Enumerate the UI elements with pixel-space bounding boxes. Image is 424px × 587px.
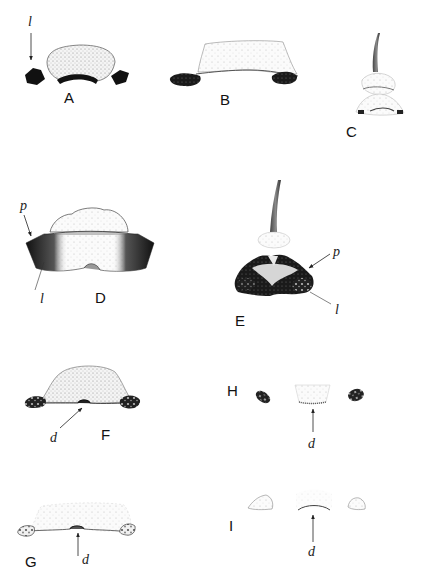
annotation-e-p: p	[333, 245, 340, 259]
annotation-a-l: l	[28, 15, 32, 29]
panel-d-drawing	[26, 208, 154, 271]
panel-label-i: I	[229, 518, 233, 533]
panel-a-drawing	[25, 45, 129, 85]
panel-c-drawing	[356, 33, 404, 115]
annotation-e-l: l	[335, 303, 339, 317]
panel-h-drawing	[254, 385, 366, 406]
panel-label-h: H	[227, 383, 238, 398]
panel-label-f: F	[101, 427, 110, 442]
panel-i-drawing	[248, 490, 365, 511]
arrow-d-p	[24, 215, 31, 236]
panel-label-c: C	[346, 124, 357, 139]
panel-label-d: D	[95, 290, 106, 305]
annotation-g-d: d	[82, 553, 89, 567]
leader-e-l	[310, 292, 331, 304]
panel-f-drawing	[25, 366, 140, 409]
panel-g-drawing	[18, 503, 135, 536]
annotation-i-d: d	[308, 545, 315, 559]
panel-label-a: A	[64, 90, 74, 105]
panel-label-e: E	[235, 313, 245, 328]
annotation-d-p: p	[20, 199, 27, 213]
panel-label-b: B	[220, 92, 230, 107]
annotation-f-d: d	[50, 431, 57, 445]
panel-b-drawing	[170, 41, 298, 86]
annotation-d-l: l	[40, 292, 44, 306]
arrow-e-p	[309, 254, 330, 268]
figure-caption-cutoff	[8, 578, 418, 587]
arrow-f-d	[60, 408, 82, 428]
panel-label-g: G	[25, 554, 37, 569]
panel-e-drawing	[235, 180, 314, 296]
annotation-h-d: d	[308, 437, 315, 451]
